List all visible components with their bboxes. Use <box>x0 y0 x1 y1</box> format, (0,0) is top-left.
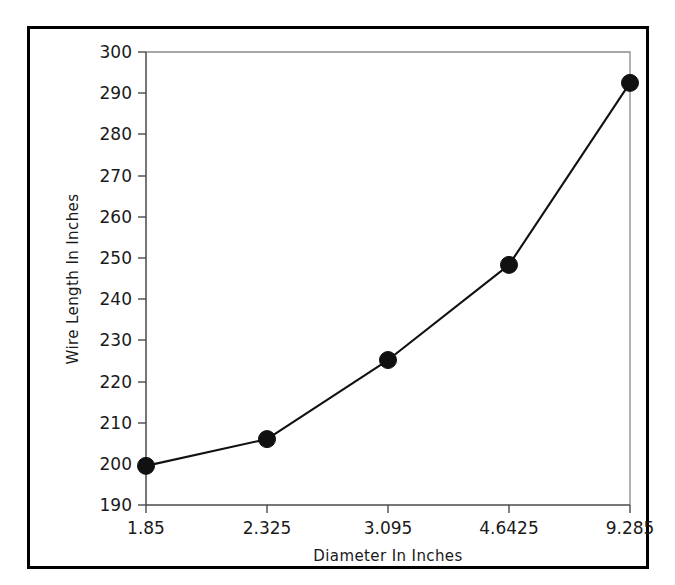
y-tick-label: 290 <box>100 83 132 103</box>
x-tick-label: 3.095 <box>364 518 413 538</box>
y-tick-label: 280 <box>100 124 132 144</box>
x-axis-title: Diameter In Inches <box>313 547 462 565</box>
data-point-marker <box>380 352 397 369</box>
y-tick-label: 210 <box>100 413 132 433</box>
y-tick-label: 260 <box>100 207 132 227</box>
y-axis-title: Wire Length In Inches <box>64 194 82 365</box>
x-tick-label: 1.85 <box>127 518 165 538</box>
plot-area-wrapper: 300 290 280 270 260 250 240 230 220 210 … <box>0 0 675 585</box>
x-axis-ticks <box>146 505 630 513</box>
x-tick-label: 2.325 <box>243 518 292 538</box>
data-point-marker <box>501 256 518 273</box>
data-series-markers <box>138 74 639 474</box>
data-point-marker <box>622 74 639 91</box>
y-axis-ticks <box>138 52 146 505</box>
data-point-marker <box>138 457 155 474</box>
y-tick-label: 190 <box>100 495 132 515</box>
y-tick-label: 300 <box>100 42 132 62</box>
x-tick-label: 9.285 <box>606 518 655 538</box>
chart-figure: 300 290 280 270 260 250 240 230 220 210 … <box>0 0 675 585</box>
x-tick-label: 4.6425 <box>479 518 538 538</box>
y-axis-tick-labels: 300 290 280 270 260 250 240 230 220 210 … <box>100 42 132 515</box>
plot-frame <box>146 52 630 505</box>
y-tick-label: 230 <box>100 330 132 350</box>
y-tick-label: 240 <box>100 289 132 309</box>
y-tick-label: 200 <box>100 454 132 474</box>
data-series-line <box>146 83 630 466</box>
line-chart-svg: 300 290 280 270 260 250 240 230 220 210 … <box>0 0 675 585</box>
y-tick-label: 270 <box>100 166 132 186</box>
data-point-marker <box>259 431 276 448</box>
x-axis-tick-labels: 1.85 2.325 3.095 4.6425 9.285 <box>127 518 654 538</box>
y-tick-label: 250 <box>100 248 132 268</box>
y-tick-label: 220 <box>100 372 132 392</box>
